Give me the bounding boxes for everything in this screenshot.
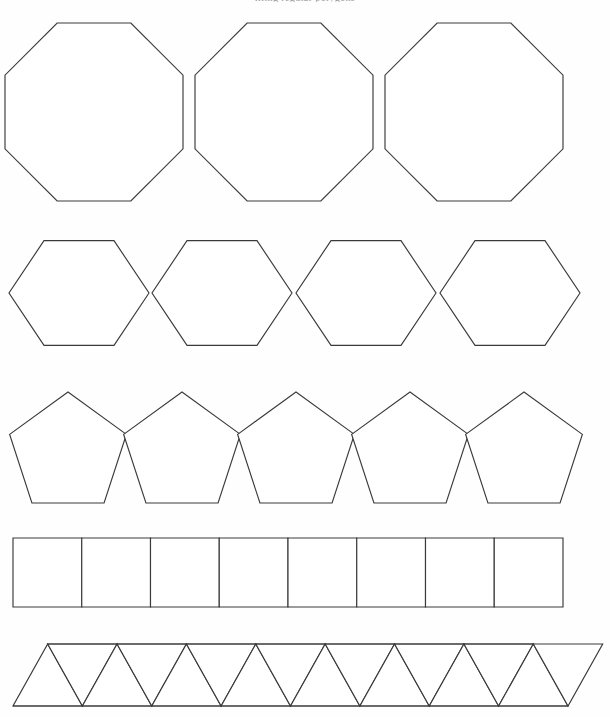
hexagon-1 [9,241,149,346]
square-2 [82,538,151,607]
pentagon-4 [352,392,469,503]
square-5 [288,538,357,607]
hexagon-row [9,241,580,346]
square-4 [219,538,288,607]
hexagon-3 [296,241,436,346]
square-8 [494,538,563,607]
worksheet-page: tiling regular polygons [0,0,610,717]
pentagon-2 [124,392,241,503]
octagon-row [5,23,563,201]
square-row [13,538,563,607]
octagon-1 [5,23,183,201]
hexagon-4 [440,241,580,346]
triangle-row [13,644,603,706]
pentagon-1 [10,392,127,503]
hexagon-2 [152,241,292,346]
square-7 [426,538,495,607]
octagon-2 [195,23,373,201]
pentagon-row [10,392,583,503]
octagon-3 [385,23,563,201]
square-1 [13,538,82,607]
pentagon-3 [238,392,355,503]
pentagon-5 [466,392,583,503]
square-3 [151,538,220,607]
polygon-canvas [0,0,610,717]
square-6 [357,538,426,607]
